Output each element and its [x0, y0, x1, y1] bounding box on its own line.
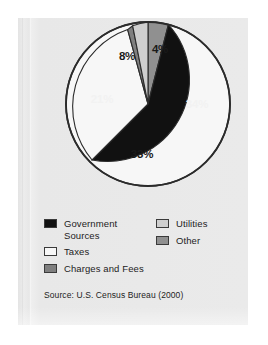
- legend-swatch-utilities: [156, 219, 169, 228]
- legend-label-utilities: Utilities: [176, 218, 208, 230]
- pie-label-other: 4%: [152, 43, 168, 55]
- pie-label-charges-and-fees: 21%: [91, 93, 113, 105]
- legend-item-other[interactable]: Other: [156, 235, 240, 247]
- pie-label-government-sources: 34%: [186, 98, 208, 110]
- pie-chart: 4% 34% 33% 21% 8%: [64, 20, 232, 188]
- pie-chart-svg: 4% 34% 33% 21% 8%: [64, 20, 232, 188]
- legend-item-utilities[interactable]: Utilities: [156, 218, 240, 230]
- legend-swatch-other: [156, 236, 169, 245]
- scan-seam-left: [22, 18, 23, 325]
- legend-label-government-sources: Government Sources: [64, 218, 117, 241]
- pie-label-utilities: 8%: [119, 50, 135, 62]
- pie-label-taxes: 33%: [131, 148, 153, 160]
- legend-swatch-government-sources: [44, 219, 57, 228]
- legend-column-left: Government Sources Taxes Charges and Fee…: [44, 218, 156, 279]
- legend-item-charges-and-fees[interactable]: Charges and Fees: [44, 263, 156, 275]
- legend-label-charges-and-fees: Charges and Fees: [64, 263, 144, 275]
- legend-item-government-sources[interactable]: Government Sources: [44, 218, 156, 241]
- legend-swatch-taxes: [44, 247, 57, 256]
- page-title: PUBLIC SCHOOL REVENUE: [0, 0, 268, 1]
- legend-label-taxes: Taxes: [64, 246, 89, 258]
- legend-column-right: Utilities Other: [156, 218, 240, 251]
- chart-panel: 4% 34% 33% 21% 8% Government Sources Tax…: [18, 18, 248, 325]
- legend-swatch-charges-and-fees: [44, 264, 57, 273]
- source-note: Source: U.S. Census Bureau (2000): [44, 290, 183, 300]
- legend-item-taxes[interactable]: Taxes: [44, 246, 156, 258]
- scan-seam: [30, 18, 31, 325]
- scan-bottom-fade: [18, 307, 248, 325]
- legend-label-other: Other: [176, 235, 200, 247]
